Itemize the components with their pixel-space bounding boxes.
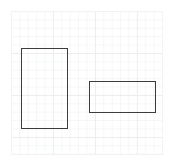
shape-rectangle-wide[interactable] xyxy=(89,81,156,113)
tall-rect-outline xyxy=(22,49,68,129)
tall-rect-svg xyxy=(21,48,68,129)
wide-rect-svg xyxy=(89,81,156,113)
wide-rect-outline xyxy=(90,82,156,113)
shape-rectangle-tall[interactable] xyxy=(21,48,68,129)
app-root xyxy=(0,0,174,165)
drawing-canvas[interactable] xyxy=(11,11,163,155)
